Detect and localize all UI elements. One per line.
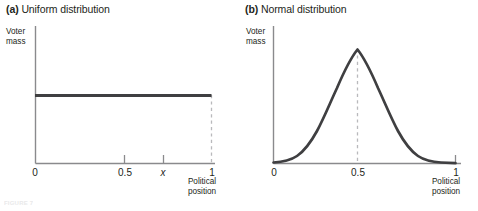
figure-caption-fragment: FIGURE 7 [4,200,33,205]
panel-b-x-axis-label: Political position [418,177,474,196]
panel-a-x-axis-label-line1: Political [174,177,230,187]
figure-container: (a) Uniform distribution Voter mass 0 0.… [0,0,478,211]
panel-a-x-axis-label: Political position [174,177,230,196]
panel-b-ticklabel-0: 0 [264,167,284,178]
panel-b-x-axis-label-line1: Political [418,177,474,187]
panel-b-x-axis-label-line2: position [418,187,474,197]
panel-a-ticklabel-x: x [153,167,173,178]
panel-a-x-axis-label-line2: position [174,187,230,197]
panel-normal-distribution: (b) Normal distribution Voter mass 0 0.5… [239,0,478,211]
panel-a-ticklabel-0-5: 0.5 [111,167,139,178]
panel-a-ticklabel-0: 0 [25,167,45,178]
panel-b-normal-curve [274,50,456,164]
panel-b-ticklabel-0-5: 0.5 [344,167,372,178]
panel-uniform-distribution: (a) Uniform distribution Voter mass 0 0.… [0,0,239,211]
